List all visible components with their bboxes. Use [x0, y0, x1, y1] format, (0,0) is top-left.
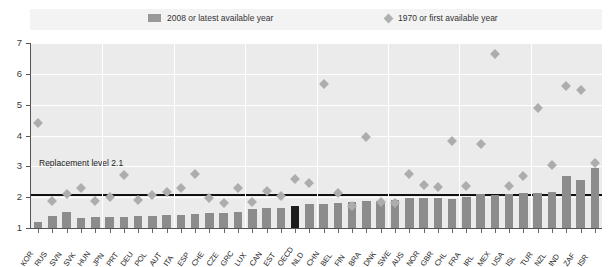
- bar-nzl: [548, 192, 557, 228]
- x-axis-tick: [523, 229, 524, 233]
- bar-grc: [234, 212, 243, 228]
- y-axis-tick: [26, 105, 31, 106]
- diamond-svk: [76, 183, 86, 193]
- bar-ind: [562, 176, 571, 228]
- x-axis-tick: [509, 229, 510, 233]
- x-axis-label-ita: ITA: [161, 254, 175, 267]
- x-axis-label-gbr: GBR: [418, 250, 435, 267]
- bar-cze: [219, 213, 228, 228]
- bar-svn: [62, 212, 71, 228]
- x-axis-tick: [438, 229, 439, 233]
- y-axis-tick: [26, 197, 31, 198]
- x-axis-tick: [138, 229, 139, 233]
- x-axis-label-hun: HUN: [76, 250, 93, 267]
- legend-label-bar: 2008 or latest available year: [167, 13, 273, 23]
- diamond-swatch-icon: [384, 13, 394, 23]
- x-axis-tick: [324, 229, 325, 233]
- x-axis-label-cze: CZE: [204, 251, 220, 267]
- diamond-est: [276, 191, 286, 201]
- x-axis-label-aut: AUT: [147, 251, 163, 267]
- x-axis-label-grc: GRC: [218, 249, 235, 267]
- y-axis-tick-label: 6: [6, 69, 22, 79]
- bar-usa: [505, 194, 514, 228]
- gridline-vertical: [531, 43, 532, 228]
- bar-est: [277, 208, 286, 228]
- bar-hun: [91, 217, 100, 228]
- plot-wrapper: 1234567 Replacement level 2.1 KORRUSSVNS…: [0, 36, 609, 267]
- chart-legend: 2008 or latest available year 1970 or fi…: [30, 9, 602, 30]
- x-axis-label-esp: ESP: [176, 251, 192, 267]
- diamond-ita: [176, 183, 186, 193]
- x-axis-label-zaf: ZAF: [561, 251, 576, 267]
- x-axis-label-nzl: NZL: [533, 251, 548, 267]
- gridline-vertical: [388, 43, 389, 228]
- y-axis-labels: 1234567: [0, 36, 24, 236]
- bar-ita: [177, 215, 186, 228]
- x-axis-tick: [595, 229, 596, 233]
- bar-isl: [519, 193, 528, 228]
- bar-esp: [191, 214, 200, 228]
- y-axis-tick-label: 7: [6, 38, 22, 48]
- square-swatch-icon: [148, 14, 161, 22]
- x-axis-label-nor: NOR: [404, 249, 421, 267]
- x-axis-tick: [81, 229, 82, 233]
- x-axis-label-isl: ISL: [504, 254, 518, 267]
- bar-zaf: [576, 180, 585, 228]
- x-axis-tick: [552, 229, 553, 233]
- x-axis-tick: [152, 229, 153, 233]
- x-axis-tick: [252, 229, 253, 233]
- diamond-nor: [419, 180, 429, 190]
- x-axis-label-dnk: DNK: [361, 250, 377, 267]
- x-axis-label-rus: RUS: [33, 250, 49, 267]
- diamond-kor: [33, 118, 43, 128]
- y-axis-tick: [26, 136, 31, 137]
- bar-irl: [476, 194, 485, 228]
- diamond-cze: [219, 198, 229, 208]
- x-axis-label-bra: BRA: [347, 250, 363, 267]
- x-axis-label-svk: SVK: [61, 251, 77, 267]
- diamond-grc: [233, 183, 243, 193]
- y-axis-tick-label: 1: [6, 223, 22, 233]
- bar-chn: [319, 204, 328, 228]
- bar-bra: [362, 201, 371, 228]
- y-axis-tick-label: 2: [6, 192, 22, 202]
- bar-nor: [419, 198, 428, 228]
- x-axis-tick: [495, 229, 496, 233]
- x-axis-label-usa: USA: [490, 250, 506, 267]
- bar-rus: [48, 216, 57, 228]
- gridline-vertical: [102, 43, 103, 228]
- diamond-isl: [519, 171, 529, 181]
- x-axis-label-pol: POL: [133, 251, 149, 267]
- gridline-vertical: [459, 43, 460, 228]
- bar-can: [262, 208, 271, 228]
- x-axis-tick: [352, 229, 353, 233]
- x-axis-label-prt: PRT: [104, 251, 120, 267]
- x-axis-tick: [95, 229, 96, 233]
- x-axis-tick: [295, 229, 296, 233]
- x-axis-tick: [338, 229, 339, 233]
- bar-gbr: [434, 198, 443, 228]
- bar-fra: [462, 197, 471, 228]
- x-axis-label-chl: CHL: [433, 251, 449, 267]
- bar-mex: [491, 195, 500, 228]
- x-axis-label-irl: IRL: [461, 253, 475, 267]
- bar-bel: [334, 203, 343, 228]
- bar-pol: [148, 216, 157, 228]
- diamond-zaf: [576, 85, 586, 95]
- x-axis-tick: [167, 229, 168, 233]
- x-axis-label-can: CAN: [247, 250, 263, 267]
- x-axis-tick: [566, 229, 567, 233]
- y-axis-tick: [26, 74, 31, 75]
- bar-nld: [305, 204, 314, 228]
- x-axis-label-ind: IND: [547, 252, 562, 267]
- legend-label-diamond: 1970 or first available year: [398, 13, 498, 23]
- bar-che: [205, 213, 214, 228]
- x-axis-tick: [309, 229, 310, 233]
- y-axis-tick: [26, 166, 31, 167]
- legend-item-diamond: 1970 or first available year: [385, 13, 498, 23]
- x-axis-tick: [409, 229, 410, 233]
- x-axis-tick: [124, 229, 125, 233]
- x-axis-tick: [195, 229, 196, 233]
- bar-svk: [77, 218, 86, 228]
- x-axis-label-che: CHE: [190, 250, 206, 267]
